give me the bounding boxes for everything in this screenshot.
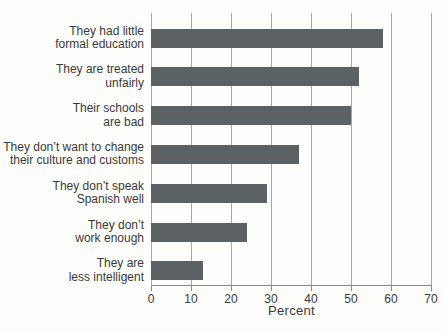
gridline xyxy=(311,13,312,285)
bar xyxy=(151,29,383,48)
gridline xyxy=(431,13,432,285)
category-label: They don’twork enough xyxy=(0,219,144,246)
category-label: They areless intelligent xyxy=(0,257,144,284)
category-label: They are treatedunfairly xyxy=(0,63,144,90)
x-axis-title: Percent xyxy=(151,303,432,318)
gridline xyxy=(391,13,392,285)
bar xyxy=(151,261,203,280)
gridline xyxy=(351,13,352,285)
category-label: They don’t speakSpanish well xyxy=(0,180,144,207)
x-axis-line xyxy=(151,285,432,286)
bar-chart-figure: 010203040506070They had littleformal edu… xyxy=(0,0,446,333)
bar xyxy=(151,184,267,203)
category-label: They don’t want to changetheir culture a… xyxy=(0,141,144,168)
bar xyxy=(151,106,351,125)
bar xyxy=(151,223,247,242)
bar xyxy=(151,145,299,164)
category-label: They had littleformal education xyxy=(0,25,144,52)
category-label: Their schoolsare bad xyxy=(0,102,144,129)
bar xyxy=(151,67,359,86)
